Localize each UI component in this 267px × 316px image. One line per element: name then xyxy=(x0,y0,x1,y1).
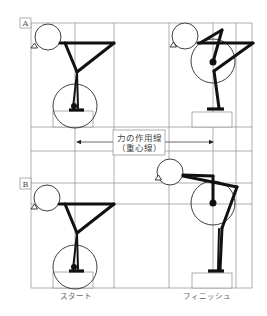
leg xyxy=(77,233,78,269)
center-of-gravity-dot xyxy=(210,200,217,207)
posture-diagram: A B 力の作用線 （重心線） xyxy=(0,0,267,316)
base-box-b-finish xyxy=(192,273,232,288)
diagram-stage: A B 力の作用線 （重心線） xyxy=(0,0,267,316)
leg xyxy=(220,228,222,270)
panel-tag-a: A xyxy=(20,18,31,28)
leg xyxy=(77,72,78,108)
center-of-gravity-dot xyxy=(71,103,77,109)
panel-tag-label: B xyxy=(23,180,29,189)
annotation-line1: 力の作用線 xyxy=(117,133,162,143)
forearm xyxy=(77,43,114,72)
caption-finish: フィニッシュ xyxy=(183,292,231,301)
center-of-gravity-dot xyxy=(210,59,217,66)
head-circle xyxy=(34,185,60,211)
head-circle xyxy=(172,23,198,49)
caption-start: スタート xyxy=(60,292,92,301)
head-circle xyxy=(35,24,61,50)
head-circle xyxy=(157,159,183,185)
arm xyxy=(183,176,237,187)
annotation-line2: （重心線） xyxy=(117,143,162,153)
panel-tag-label: A xyxy=(22,19,29,28)
panel-tag-b: B xyxy=(20,178,31,189)
figure-b-finish xyxy=(155,159,237,271)
base-box-a-finish xyxy=(192,112,232,127)
figure-a-finish xyxy=(170,23,253,109)
forearm xyxy=(77,204,114,233)
forearm xyxy=(214,43,253,71)
arrow-left-icon xyxy=(76,140,81,144)
center-of-gravity-dot xyxy=(71,264,77,270)
leg xyxy=(218,229,219,270)
leg xyxy=(214,71,219,108)
